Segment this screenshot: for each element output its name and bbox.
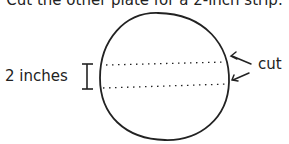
dimension-marker-icon [82, 64, 93, 89]
cut-label: cut [258, 55, 282, 73]
arrow-top-icon [231, 52, 251, 64]
cut-line-top [106, 62, 226, 65]
cut-line-bottom [103, 84, 229, 88]
arrow-bottom-icon [232, 73, 249, 81]
dimension-label: 2 inches [5, 67, 68, 85]
plate-circle [100, 13, 229, 140]
